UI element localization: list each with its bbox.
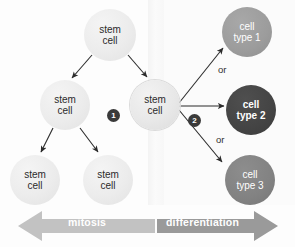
- node-label-line2: cell: [100, 180, 115, 191]
- node-cell-type-2[interactable]: cell type 2: [226, 85, 276, 135]
- phase-label-differentiation: differentiation: [166, 216, 239, 228]
- node-cell-type-3[interactable]: cell type 3: [225, 155, 275, 205]
- stem-cell-diagram: stem cell stem cell stem cell stem cell …: [0, 0, 295, 247]
- or-label-upper: or: [218, 64, 226, 75]
- node-stem-cell-bottom-right[interactable]: stem cell: [83, 155, 133, 205]
- edge-left-to-bottomright: [80, 128, 98, 152]
- phase-axis-arrow: [0, 205, 295, 247]
- node-label-line2: cell: [102, 35, 117, 46]
- edge-left-to-bottomleft: [41, 128, 53, 152]
- badge-step-1[interactable]: 1: [107, 109, 120, 122]
- node-label-line2: cell: [57, 105, 72, 116]
- node-label-line2: type 3: [236, 180, 263, 191]
- node-label-line2: cell: [27, 180, 42, 191]
- edge-top-to-left: [72, 55, 92, 78]
- node-stem-cell-top[interactable]: stem cell: [84, 9, 136, 61]
- node-label-line2: type 2: [237, 110, 266, 121]
- node-stem-cell-bottom-left[interactable]: stem cell: [10, 155, 60, 205]
- node-label-line1: stem: [97, 169, 119, 180]
- node-label-line2: cell: [147, 105, 162, 116]
- phase-label-mitosis: mitosis: [68, 216, 106, 228]
- node-label-line1: cell: [242, 169, 257, 180]
- node-stem-cell-middle[interactable]: stem cell: [130, 80, 180, 130]
- badge-step-2[interactable]: 2: [188, 114, 201, 127]
- edge-mid-to-celltype1: [179, 48, 223, 103]
- node-label-line1: stem: [24, 169, 46, 180]
- node-stem-cell-left[interactable]: stem cell: [40, 80, 90, 130]
- or-label-lower: or: [216, 134, 224, 145]
- node-label-line1: stem: [54, 94, 76, 105]
- node-label-line1: stem: [99, 24, 121, 35]
- node-label-line1: cell: [243, 99, 260, 110]
- edge-top-to-mid: [128, 55, 147, 77]
- badge-step-2-label: 2: [192, 117, 196, 125]
- node-cell-type-1[interactable]: cell type 1: [222, 7, 272, 57]
- node-label-line2: type 1: [233, 32, 260, 43]
- node-label-line1: stem: [144, 94, 166, 105]
- node-label-line1: cell: [239, 21, 254, 32]
- badge-step-1-label: 1: [111, 112, 115, 120]
